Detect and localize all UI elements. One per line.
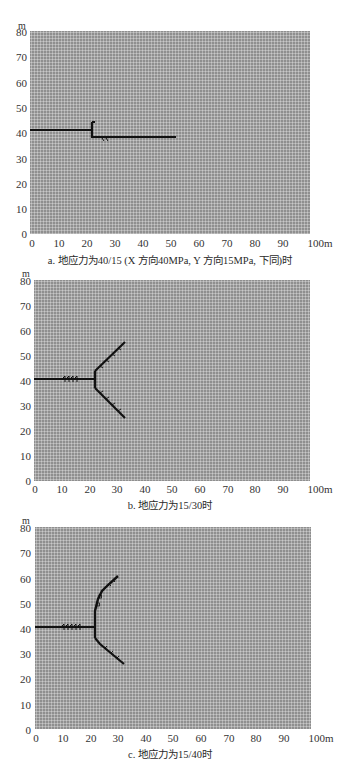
x-tick: 90 — [269, 733, 299, 744]
y-tick: 50 — [15, 599, 31, 610]
x-tick: 70 — [214, 733, 244, 744]
x-tick: 10 — [48, 733, 78, 744]
x-tick: 80 — [241, 733, 271, 744]
y-tick: 20 — [15, 674, 31, 685]
y-tick: 30 — [15, 649, 31, 660]
panel-c: m 80 70 60 50 40 30 20 10 0 0 10 20 30 4… — [0, 0, 340, 771]
x-tick: 50 — [158, 733, 188, 744]
fracture-plot-c — [35, 527, 311, 729]
x-tick: 60 — [186, 733, 216, 744]
x-tick: 30 — [103, 733, 133, 744]
caption-c: c. 地应力为15/40时 — [0, 746, 340, 761]
fracture-paths-c — [35, 527, 311, 729]
y-tick: 70 — [15, 548, 31, 559]
y-tick: 10 — [15, 700, 31, 711]
x-tick: 0 — [21, 733, 51, 744]
x-tick: 20 — [76, 733, 106, 744]
x-tick: 40 — [131, 733, 161, 744]
y-tick: 80 — [15, 523, 31, 534]
y-tick: 60 — [15, 574, 31, 585]
y-tick: 40 — [15, 624, 31, 635]
x-tick: 100m — [303, 733, 339, 744]
